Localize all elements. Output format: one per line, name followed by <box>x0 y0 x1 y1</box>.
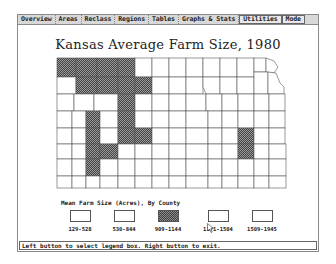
legend-item-909-1144[interactable]: 909-1144 <box>149 210 187 232</box>
legend-label: 1509-1945 <box>243 226 281 232</box>
menu-regions[interactable]: Regions <box>115 15 149 24</box>
legend-item-129-528[interactable]: 129-528 <box>61 210 99 232</box>
legend-box[interactable] <box>208 210 229 222</box>
legend-item-1171-1504[interactable]: 1171-1504 <box>199 210 237 232</box>
legend-item-1509-1945[interactable]: 1509-1945 <box>243 210 281 232</box>
legend-label: 1171-1504 <box>199 226 237 232</box>
legend-box[interactable] <box>114 210 135 222</box>
legend-label: 909-1144 <box>149 226 187 232</box>
menu-mode[interactable]: Mode <box>282 15 305 24</box>
legend-box-hatched[interactable] <box>158 210 179 222</box>
menu-bar: Overview Areas Reclass Regions Tables Gr… <box>18 15 318 25</box>
menu-graphs-stats[interactable]: Graphs & Stats <box>179 15 239 24</box>
legend: 129-528 530-844 909-1144 1171-1504 1509-… <box>61 210 301 240</box>
app-window: Overview Areas Reclass Regions Tables Gr… <box>17 14 319 252</box>
status-bar: Left button to select legend box. Right … <box>19 241 317 250</box>
menu-reclass[interactable]: Reclass <box>82 15 116 24</box>
kansas-county-map[interactable] <box>56 57 292 189</box>
map-title: Kansas Average Farm Size, 1980 <box>18 37 318 52</box>
legend-box[interactable] <box>70 210 91 222</box>
legend-item-530-844[interactable]: 530-844 <box>105 210 143 232</box>
menu-overview[interactable]: Overview <box>18 15 56 24</box>
menu-utilities[interactable]: Utilities <box>239 15 281 24</box>
legend-box[interactable] <box>252 210 273 222</box>
legend-label: 129-528 <box>61 226 99 232</box>
menu-areas[interactable]: Areas <box>56 15 82 24</box>
legend-label: 530-844 <box>105 226 143 232</box>
menu-tables[interactable]: Tables <box>149 15 179 24</box>
legend-title: Mean Farm Size (Acres), By County <box>61 199 180 206</box>
mouse-pointer-icon <box>207 223 215 233</box>
